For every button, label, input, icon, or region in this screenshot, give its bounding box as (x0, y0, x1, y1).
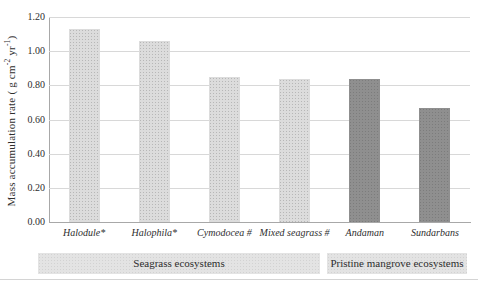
y-tick-label: 0.20 (13, 182, 45, 194)
gridline (49, 17, 470, 18)
gridline (49, 51, 470, 52)
bar-andaman (349, 79, 380, 223)
x-tick-label-halophila: Halophila* (119, 227, 189, 238)
x-tick-label-andaman: Andaman (330, 227, 400, 238)
gridline (49, 85, 470, 86)
bar-sundarbans (419, 108, 450, 222)
x-tick-label-mixed-seagrass: Mixed seagrass # (260, 227, 330, 238)
figure-bottom-rule (0, 279, 478, 280)
gridline (49, 188, 470, 189)
group-band-seagrass: Seagrass ecosystems (38, 253, 320, 274)
group-band-mangrove: Pristine mangrove ecosystems (327, 253, 467, 274)
gridline (49, 154, 470, 155)
bar-halophila (139, 41, 170, 222)
y-tick-label: 0.00 (13, 216, 45, 228)
group-label-mangrove: Pristine mangrove ecosystems (330, 257, 463, 269)
y-axis-title-end: ) (5, 36, 17, 40)
y-axis-title-sup-yr: -1 (3, 40, 12, 47)
y-tick-label: 1.00 (13, 45, 45, 57)
x-tick-label-cymodocea: Cymodocea # (189, 227, 259, 238)
x-tick-label-sundarbans: Sundarbans (400, 227, 470, 238)
bar-halodule (69, 29, 100, 222)
x-tick-label-halodule: Halodule* (49, 227, 119, 238)
y-tick-label: 0.80 (13, 79, 45, 91)
group-label-seagrass: Seagrass ecosystems (133, 257, 224, 269)
y-tick-label: 0.40 (13, 148, 45, 160)
gridline (49, 120, 470, 121)
y-tick-label: 1.20 (13, 11, 45, 23)
bar-mixed-seagrass (279, 79, 310, 223)
bar-chart-figure: Mass accumulation rate ( g cm-2 yr-1) Se… (0, 0, 478, 282)
y-tick-label: 0.60 (13, 114, 45, 126)
bar-cymodocea (209, 77, 240, 222)
y-axis-title-sup-cm: -2 (3, 59, 12, 66)
